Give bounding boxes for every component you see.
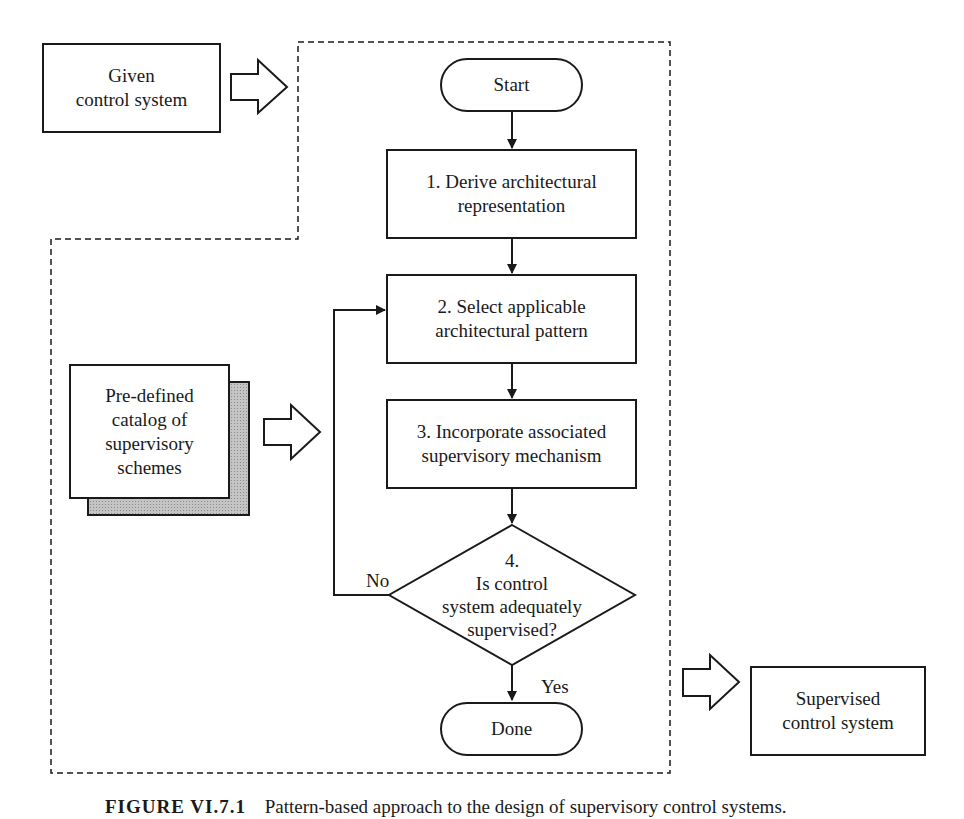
given-system-label: Given control system xyxy=(43,44,220,132)
figure-caption: FIGURE VI.7.1 Pattern-based approach to … xyxy=(105,795,787,819)
hollow-arrow-icon xyxy=(683,655,739,709)
catalog-label: Pre-defined catalog of supervisory schem… xyxy=(70,365,229,498)
figure-number: FIGURE VI.7.1 xyxy=(105,796,246,817)
step3-label: 3. Incorporate associated supervisory me… xyxy=(387,400,636,488)
no-loopback-connector xyxy=(334,310,389,595)
decision-label: 4. Is control system adequately supervis… xyxy=(400,530,624,660)
supervised-system-label: Supervised control system xyxy=(751,667,925,755)
start-label: Start xyxy=(441,59,582,111)
done-label: Done xyxy=(441,703,582,755)
hollow-arrow-icon xyxy=(264,405,320,459)
step1-label: 1. Derive architectural representation xyxy=(387,150,636,238)
no-edge-label: No xyxy=(366,570,389,592)
step2-label: 2. Select applicable architectural patte… xyxy=(387,275,636,363)
caption-text: Pattern-based approach to the design of … xyxy=(265,796,787,817)
yes-edge-label: Yes xyxy=(541,676,569,698)
hollow-arrow-icon xyxy=(231,60,287,113)
